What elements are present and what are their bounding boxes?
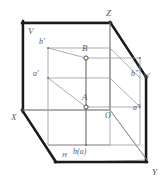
projection-box-group [48, 48, 140, 145]
h-plane-left-diagonal-edge [22, 110, 56, 162]
projection-diagram: V Z W X Y H O b' a' B A b" a" b(a) [0, 0, 168, 186]
label-point-B: B [82, 44, 88, 53]
label-plane-h: H [62, 152, 67, 159]
label-origin-o: O [105, 112, 111, 120]
label-axis-x: X [11, 113, 17, 122]
label-point-ba: b(a) [73, 148, 86, 156]
w-plane-top-diagonal-edge [110, 22, 146, 77]
box-depth-edge-aprime-to-A [48, 78, 86, 107]
label-axis-z: Z [106, 9, 111, 18]
point-B-marker [84, 56, 88, 60]
axis-oy [110, 110, 147, 160]
label-axis-y: Y [152, 168, 157, 177]
w-plane-outline [110, 22, 147, 160]
projection-tick-group [47, 47, 141, 146]
label-plane-v: V [28, 27, 34, 36]
point-bprime-marker [47, 47, 49, 49]
point-aprime-marker [47, 77, 49, 79]
label-point-A: A [82, 93, 88, 102]
box-depth-edge-bprime-to-B [48, 48, 86, 58]
label-point-bprime: b' [39, 38, 45, 46]
label-plane-w: W [143, 73, 150, 81]
point-ba-marker [85, 144, 87, 146]
v-plane-outline [22, 22, 110, 110]
point-A-marker [84, 105, 88, 109]
point-bdoubleprime-marker [139, 57, 141, 59]
label-point-bdoubleprime: b" [131, 70, 138, 78]
label-point-aprime: a' [33, 70, 39, 78]
label-point-adoubleprime: a" [133, 104, 140, 112]
